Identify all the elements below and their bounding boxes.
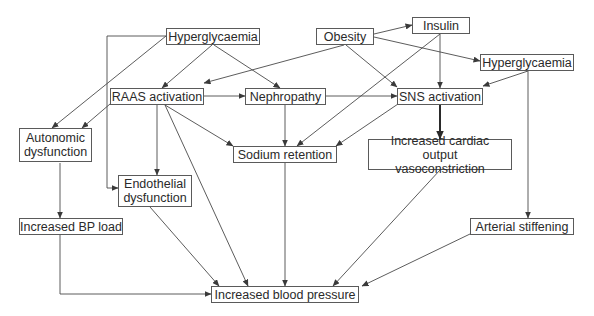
node-sodium-retention: Sodium retention	[233, 146, 337, 163]
edge-obesity-to-hyper2	[374, 37, 480, 61]
node-label: Endothelial dysfunction	[123, 177, 186, 205]
node-increased-cardiac-output: Increased cardiac output vasoconstrictio…	[368, 139, 512, 170]
node-increased-bp-load: Increased BP load	[19, 218, 123, 235]
node-label: Increased cardiac output vasoconstrictio…	[372, 134, 508, 176]
node-label: Obesity	[324, 30, 366, 44]
node-obesity: Obesity	[316, 28, 374, 45]
node-increased-blood-pressure: Increased blood pressure	[211, 286, 359, 303]
edge-obesity-to-sns	[346, 45, 397, 87]
node-label: Sodium retention	[238, 148, 333, 162]
node-label: Autonomic dysfunction	[24, 131, 87, 159]
node-hyperglycaemia-left: Hyperglycaemia	[166, 28, 260, 45]
edge-obesity-to-raas	[204, 45, 344, 83]
node-label: Insulin	[423, 19, 459, 33]
node-hyperglycaemia-right: Hyperglycaemia	[480, 54, 574, 71]
node-sns-activation: SNS activation	[397, 88, 483, 105]
edge-hyper1-to-autonomic	[52, 36, 166, 128]
node-label: SNS activation	[399, 90, 481, 104]
edge-endo-to-bp	[150, 207, 219, 286]
node-nephropathy: Nephropathy	[245, 88, 326, 105]
edge-cardiac-to-bp	[333, 170, 440, 286]
node-label: Hyperglycaemia	[168, 30, 258, 44]
node-insulin: Insulin	[412, 17, 470, 34]
node-label: Hyperglycaemia	[482, 56, 572, 70]
edge-arterial-to-bp	[362, 234, 470, 286]
node-label: Increased blood pressure	[214, 288, 355, 302]
node-endothelial-dysfunction: Endothelial dysfunction	[118, 175, 192, 207]
edge-raas-to-autonomic	[82, 104, 110, 128]
node-label: RAAS activation	[112, 90, 202, 104]
node-arterial-stiffening: Arterial stiffening	[470, 218, 574, 235]
node-raas-activation: RAAS activation	[110, 88, 204, 105]
edge-hyper2-to-sns	[483, 71, 528, 86]
edge-obesity-to-insulin	[374, 25, 412, 34]
node-autonomic-dysfunction: Autonomic dysfunction	[19, 128, 92, 162]
node-label: Nephropathy	[250, 90, 322, 104]
edge-bpload-to-bp	[60, 235, 211, 294]
edge-hyper1-to-nephro	[214, 45, 280, 88]
edge-hyper1-to-raas	[162, 45, 212, 88]
node-label: Increased BP load	[20, 220, 122, 234]
edge-raas-to-sodium	[165, 105, 233, 146]
node-label: Arterial stiffening	[476, 220, 569, 234]
